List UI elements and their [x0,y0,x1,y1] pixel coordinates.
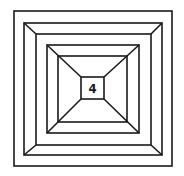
diagonal-inner-tr [104,45,139,77]
nested-squares-diagram: 4 [0,0,184,176]
diagonal-outer-br [151,145,162,155]
diagonal-inner-tl [47,45,81,77]
diagonal-inner-bl [47,99,81,133]
center-label: 4 [88,81,96,96]
diagonal-outer-tr [151,23,162,34]
diagonal-outer-bl [24,145,36,155]
diagonal-outer-tl [24,23,36,34]
diagonal-inner-br [104,99,139,133]
